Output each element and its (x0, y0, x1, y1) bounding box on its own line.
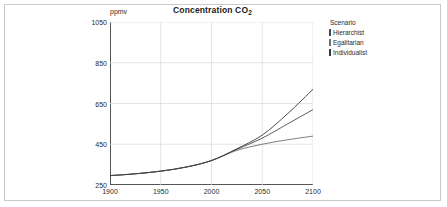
chart-title-subscript: 2 (248, 9, 252, 16)
chart-title-text: Concentration CO (173, 5, 248, 15)
y-tick-label: 850 (95, 59, 107, 66)
legend-color-swatch (329, 29, 331, 36)
x-tick-label: 1950 (153, 188, 169, 195)
legend-color-swatch (329, 39, 331, 46)
x-tick-label: 2050 (254, 188, 270, 195)
x-tick-label: 2100 (305, 188, 321, 195)
legend-item[interactable]: Individualist (329, 48, 399, 57)
x-tick-label: 1900 (102, 188, 118, 195)
legend-color-swatch (329, 49, 331, 56)
legend-item-label: Egalitarian (333, 39, 364, 46)
chart-title: Concentration CO2 (105, 5, 320, 15)
legend-item[interactable]: Egalitarian (329, 38, 399, 47)
plot-canvas (110, 22, 313, 185)
legend-item[interactable]: Hierarchist (329, 28, 399, 37)
legend: Scenario HierarchistEgalitarianIndividua… (329, 19, 399, 58)
chart-screenshot: Concentration CO2 ppmv 2504506508501050 … (0, 0, 447, 207)
y-tick-label: 650 (95, 100, 107, 107)
legend-items: HierarchistEgalitarianIndividualist (329, 28, 399, 57)
legend-title: Scenario (329, 19, 399, 26)
y-axis-unit-label: ppmv (110, 8, 127, 15)
legend-item-label: Hierarchist (333, 29, 364, 36)
plot-area: 2504506508501050 19001950200020502100 (110, 22, 313, 185)
legend-item-label: Individualist (333, 49, 367, 56)
x-tick-label: 2000 (204, 188, 220, 195)
y-tick-label: 450 (95, 141, 107, 148)
y-tick-label: 1050 (91, 19, 107, 26)
